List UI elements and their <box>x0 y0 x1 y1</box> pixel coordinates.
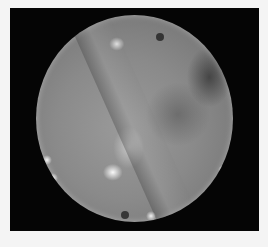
rim-highlight <box>42 155 52 165</box>
circular-photo <box>36 15 233 222</box>
image-frame <box>10 8 259 231</box>
rim-highlight <box>48 173 58 183</box>
rim-dark-spot <box>121 211 129 219</box>
tissue-fold <box>69 15 199 222</box>
rim-dark-spot <box>174 213 182 221</box>
rim-dark-spot <box>156 33 164 41</box>
rim-highlight <box>218 165 228 175</box>
rim-highlight <box>146 211 156 221</box>
